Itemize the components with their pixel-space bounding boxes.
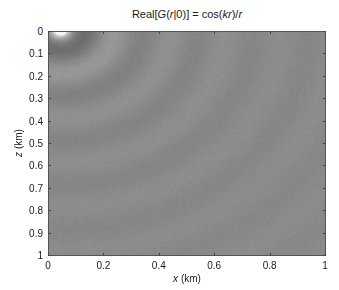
y-tick-label: 0.4 xyxy=(29,115,43,126)
x-tick-label: 1 xyxy=(322,260,328,271)
y-tick-label: 0.8 xyxy=(29,205,43,216)
x-tick-mark xyxy=(325,253,326,256)
y-tick-label: 0.3 xyxy=(29,93,43,104)
plot-area xyxy=(48,31,326,256)
y-tick-mark xyxy=(48,143,51,144)
y-tick-label: 0.5 xyxy=(29,138,43,149)
y-tick-mark xyxy=(323,233,326,234)
heatmap-canvas xyxy=(49,32,325,255)
y-tick-mark xyxy=(48,76,51,77)
y-tick-label: 0.6 xyxy=(29,160,43,171)
y-tick-mark xyxy=(48,53,51,54)
x-tick-mark xyxy=(214,253,215,256)
x-tick-label: 0 xyxy=(45,260,51,271)
x-tick-mark xyxy=(48,31,49,34)
y-tick-mark xyxy=(48,165,51,166)
y-tick-mark xyxy=(323,53,326,54)
x-tick-label: 0.4 xyxy=(152,260,166,271)
y-tick-label: 0 xyxy=(37,26,43,37)
x-tick-mark xyxy=(270,31,271,34)
y-axis-label: z (km) xyxy=(13,129,24,157)
y-tick-mark xyxy=(323,188,326,189)
y-tick-mark xyxy=(323,165,326,166)
y-tick-mark xyxy=(48,210,51,211)
x-tick-mark xyxy=(214,31,215,34)
x-tick-mark xyxy=(270,253,271,256)
y-tick-label: 1 xyxy=(37,250,43,261)
y-tick-label: 0.1 xyxy=(29,48,43,59)
y-tick-mark xyxy=(323,143,326,144)
y-tick-mark xyxy=(48,98,51,99)
x-tick-mark xyxy=(103,253,104,256)
y-tick-mark xyxy=(323,121,326,122)
x-tick-label: 0.8 xyxy=(263,260,277,271)
y-tick-label: 0.2 xyxy=(29,70,43,81)
y-tick-mark xyxy=(48,188,51,189)
x-tick-label: 0.2 xyxy=(96,260,110,271)
title-argument: (r|0)] = cos(kr)/r xyxy=(166,8,242,20)
y-tick-mark xyxy=(48,233,51,234)
chart-title: Real[G(r|0)] = cos(kr)/r xyxy=(48,8,326,20)
y-tick-label: 0.9 xyxy=(29,227,43,238)
x-tick-mark xyxy=(325,31,326,34)
x-tick-mark xyxy=(159,253,160,256)
x-tick-label: 0.6 xyxy=(207,260,221,271)
y-tick-mark xyxy=(323,210,326,211)
x-axis-label: x (km) xyxy=(48,273,326,284)
x-tick-mark xyxy=(48,253,49,256)
x-tick-mark xyxy=(103,31,104,34)
y-tick-mark xyxy=(323,98,326,99)
y-tick-label: 0.7 xyxy=(29,182,43,193)
x-tick-mark xyxy=(159,31,160,34)
y-tick-mark xyxy=(48,121,51,122)
y-tick-mark xyxy=(323,76,326,77)
